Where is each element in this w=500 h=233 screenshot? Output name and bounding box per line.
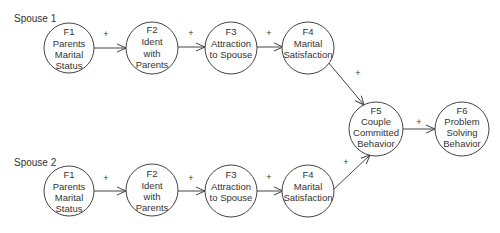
svg-text:F5: F5 [370,105,381,116]
svg-text:F1: F1 [63,26,74,37]
node-s1-f3: F3 Attraction to Spouse [205,22,257,74]
svg-text:Committed: Committed [353,127,399,138]
node-s1-f1: F1 Parents Marital Status [44,23,94,73]
edge-s2-f4-f5 [333,155,370,190]
edge-sign: + [103,173,108,183]
node-s2-f3: F3 Attraction to Spouse [205,165,257,217]
svg-text:Marital: Marital [55,49,84,60]
svg-text:Status: Status [56,203,83,214]
svg-text:to Spouse: to Spouse [210,49,253,60]
edge-sign: + [103,29,108,39]
node-f5: F5 Couple Committed Behavior [349,102,403,156]
svg-text:Attraction: Attraction [211,181,251,192]
svg-text:Solving: Solving [446,127,477,138]
svg-text:Ident: Ident [141,180,162,191]
svg-text:F4: F4 [302,26,313,37]
group-label-spouse-1: Spouse 1 [14,13,57,24]
node-s2-f2: F2 Ident with Parents [126,164,178,216]
svg-text:F4: F4 [302,169,313,180]
node-s2-f4: F4 Marital Satisfaction [282,165,334,217]
edge-sign: + [188,173,193,183]
edge-sign: + [266,172,271,182]
edge-sign: + [416,117,421,127]
svg-text:F3: F3 [225,26,236,37]
svg-text:Status: Status [56,60,83,71]
svg-text:F3: F3 [225,169,236,180]
svg-text:Parents: Parents [136,59,169,70]
svg-text:to Spouse: to Spouse [210,192,253,203]
svg-text:with: with [143,48,161,59]
node-f6: F6 Problem Solving Behavior [435,102,489,156]
svg-text:Couple: Couple [361,116,391,127]
svg-text:Satisfaction: Satisfaction [283,192,332,203]
svg-text:Problem: Problem [444,116,479,127]
svg-text:Marital: Marital [294,38,323,49]
svg-text:F1: F1 [63,169,74,180]
edge-sign: + [188,28,193,38]
edge-sign: + [355,68,360,78]
svg-text:Ident: Ident [141,36,162,47]
svg-text:Satisfaction: Satisfaction [283,49,332,60]
svg-text:Marital: Marital [294,181,323,192]
svg-text:Attraction: Attraction [211,38,251,49]
node-s1-f4: F4 Marital Satisfaction [282,22,334,74]
svg-text:with: with [143,191,161,202]
svg-text:F6: F6 [456,105,467,116]
svg-text:Marital: Marital [55,192,84,203]
svg-text:Parents: Parents [53,38,86,49]
svg-text:Parents: Parents [136,202,169,213]
svg-text:Parents: Parents [53,181,86,192]
path-diagram: Spouse 1 Spouse 2 + + + + + + + + + F1 P… [0,0,500,233]
group-label-spouse-2: Spouse 2 [14,157,57,168]
svg-text:Behavior: Behavior [357,138,395,149]
svg-text:Behavior: Behavior [443,138,481,149]
node-s2-f1: F1 Parents Marital Status [44,166,94,216]
svg-text:F2: F2 [146,168,157,179]
node-s1-f2: F2 Ident with Parents [126,22,178,74]
svg-text:F2: F2 [146,24,157,35]
edge-sign: + [343,157,348,167]
edge-sign: + [266,28,271,38]
